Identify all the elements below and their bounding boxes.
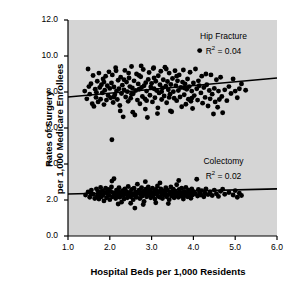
- scatter-point: [96, 71, 101, 76]
- scatter-point: [224, 98, 229, 103]
- scatter-point: [109, 179, 114, 184]
- scatter-point: [210, 193, 215, 198]
- scatter-point: [216, 89, 221, 94]
- scatter-point: [159, 89, 164, 94]
- scatter-point: [147, 93, 152, 98]
- scatter-point: [128, 201, 133, 206]
- scatter-point: [173, 68, 178, 73]
- scatter-point: [211, 112, 216, 117]
- scatter-point: [182, 92, 187, 97]
- chart-figure: 0.02.04.06.08.010.012.0 1.02.03.04.05.06…: [0, 0, 295, 286]
- scatter-point: [143, 179, 148, 184]
- scatter-point: [150, 99, 155, 104]
- scatter-point: [155, 105, 160, 110]
- scatter-point: [151, 65, 156, 70]
- series-name-label: Hip Fracture: [184, 30, 262, 42]
- scatter-point: [213, 99, 218, 104]
- scatter-point: [143, 107, 148, 112]
- scatter-point: [199, 74, 204, 79]
- scatter-point: [147, 70, 152, 75]
- scatter-point: [161, 77, 166, 82]
- scatter-point: [176, 178, 181, 183]
- scatter-point: [218, 75, 223, 80]
- scatter-point: [112, 95, 117, 100]
- scatter-point: [146, 77, 151, 82]
- scatter-point: [174, 98, 179, 103]
- scatter-point: [137, 101, 142, 106]
- scatter-points-layer: [82, 48, 248, 210]
- scatter-point: [155, 111, 160, 116]
- scatter-point: [168, 108, 173, 113]
- scatter-point: [209, 72, 214, 77]
- scatter-point: [127, 76, 132, 81]
- scatter-point: [210, 92, 215, 97]
- scatter-point: [190, 106, 195, 111]
- scatter-point: [130, 110, 135, 115]
- scatter-point: [144, 98, 149, 103]
- scatter-point: [208, 96, 213, 101]
- scatter-point: [239, 81, 244, 86]
- scatter-point: [121, 114, 126, 119]
- scatter-point: [203, 72, 208, 77]
- scatter-point: [164, 67, 169, 72]
- scatter-point: [95, 79, 100, 84]
- scatter-point: [102, 102, 107, 107]
- x-axis-tick-label: 6.0: [265, 243, 289, 252]
- scatter-point: [216, 194, 221, 199]
- scatter-point: [86, 84, 91, 89]
- scatter-point: [220, 110, 225, 115]
- scatter-point: [206, 104, 211, 109]
- scatter-point: [123, 95, 128, 100]
- scatter-point: [116, 202, 121, 207]
- scatter-point: [98, 97, 103, 102]
- scatter-point: [174, 74, 179, 79]
- scatter-point: [237, 86, 242, 91]
- scatter-point: [139, 63, 144, 68]
- scatter-point: [109, 137, 114, 142]
- scatter-point: [203, 95, 208, 100]
- scatter-point: [107, 86, 112, 91]
- y-axis-title-line2: per 1,000 Medicare Enrollees: [54, 29, 65, 229]
- scatter-point: [181, 193, 186, 198]
- scatter-point: [219, 94, 224, 99]
- scatter-point: [135, 182, 140, 187]
- x-axis-title: Hospital Beds per 1,000 Residents: [48, 266, 288, 277]
- scatter-point: [231, 77, 236, 82]
- scatter-point: [166, 201, 171, 206]
- scatter-point: [118, 108, 123, 113]
- scatter-point: [126, 71, 131, 76]
- r-squared-label: R2 = 0.02: [184, 167, 262, 182]
- series-annotation: ColectomyR2 = 0.02: [184, 155, 262, 182]
- scatter-point: [174, 182, 179, 187]
- scatter-point: [114, 68, 119, 73]
- x-axis-tick-label: 1.0: [56, 243, 80, 252]
- scatter-point: [195, 98, 200, 103]
- scatter-point: [136, 81, 141, 86]
- scatter-point: [109, 185, 114, 190]
- series-annotation: Hip FractureR2 = 0.04: [184, 30, 262, 57]
- scatter-point: [178, 95, 183, 100]
- scatter-point: [222, 192, 227, 197]
- scatter-point: [212, 86, 217, 91]
- scatter-point: [243, 88, 248, 93]
- scatter-point: [196, 78, 201, 83]
- scatter-point: [91, 73, 96, 78]
- scatter-point: [185, 77, 190, 82]
- scatter-point: [170, 76, 175, 81]
- x-axis-tick-label: 3.0: [140, 243, 164, 252]
- r-squared-label: R2 = 0.04: [184, 42, 262, 57]
- scatter-point: [167, 71, 172, 76]
- scatter-point: [164, 100, 169, 105]
- scatter-point: [102, 80, 107, 85]
- scatter-point: [141, 202, 146, 207]
- scatter-point: [128, 96, 133, 101]
- scatter-point: [179, 104, 184, 109]
- scatter-point: [188, 70, 193, 75]
- scatter-point: [162, 94, 167, 99]
- scatter-point: [231, 193, 236, 198]
- y-axis-title-line1: Rates of Surgery: [43, 29, 54, 229]
- y-axis-title: Rates of Surgery per 1,000 Medicare Enro…: [43, 29, 65, 229]
- scatter-point: [235, 95, 240, 100]
- scatter-point: [152, 95, 157, 100]
- scatter-point: [152, 76, 157, 81]
